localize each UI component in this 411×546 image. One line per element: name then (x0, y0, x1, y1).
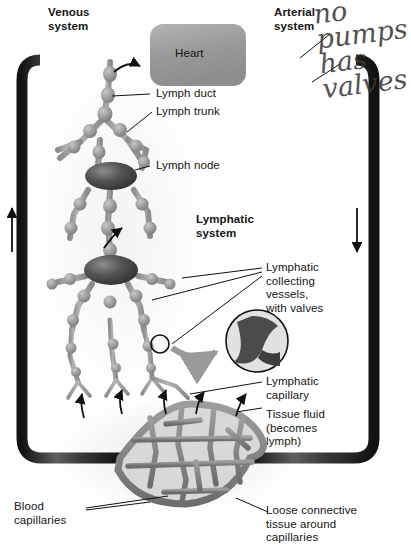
label-lymphatic-system: Lymphatic system (196, 213, 254, 240)
label-heart: Heart (175, 47, 204, 61)
label-collecting-vessels: Lymphatic collecting vessels, with valve… (266, 261, 323, 315)
label-lymph-node: Lymph node (156, 159, 220, 173)
label-lymph-duct: Lymph duct (156, 87, 216, 101)
label-loose-connective: Loose connective tissue around capillari… (266, 504, 357, 545)
label-lymphatic-capillary: Lymphatic capillary (266, 375, 319, 402)
label-lymph-trunk: Lymph trunk (156, 105, 220, 119)
label-tissue-fluid: Tissue fluid (becomes lymph) (266, 408, 325, 449)
label-blood-capillaries: Blood capillaries (14, 500, 66, 527)
handwritten-annotation: no pumps has valves (312, 0, 411, 101)
label-venous-system: Venous system (48, 6, 90, 33)
lymph-node-lower (84, 255, 138, 285)
lymph-node-upper (85, 162, 137, 190)
label-arterial-system: Arterial system (274, 6, 315, 33)
